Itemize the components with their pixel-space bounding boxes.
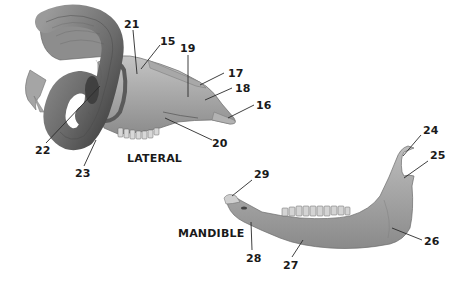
label-26: 26 [424, 236, 439, 247]
label-19: 19 [180, 43, 195, 54]
skull-illustration [0, 0, 463, 283]
diagram-stage: LATERAL MANDIBLE 21 15 19 17 18 16 20 22… [0, 0, 463, 283]
label-21: 20 [212, 138, 227, 149]
lateral-view-title: LATERAL [127, 153, 182, 164]
label-16: 16 [256, 100, 271, 111]
label-29: 29 [254, 169, 269, 180]
label-25: 25 [430, 150, 445, 161]
mandible-view-title: MANDIBLE [178, 228, 244, 239]
label-22: 22 [35, 145, 50, 156]
label-18: 18 [235, 83, 250, 94]
label-17: 17 [228, 68, 243, 79]
mandible [224, 146, 414, 249]
lateral-skull [25, 14, 235, 139]
label-15: 15 [160, 36, 175, 47]
label-20: 21 [124, 19, 139, 30]
label-28: 28 [246, 253, 261, 264]
label-24: 24 [423, 125, 438, 136]
label-23: 23 [75, 168, 90, 179]
label-27: 27 [283, 260, 298, 271]
